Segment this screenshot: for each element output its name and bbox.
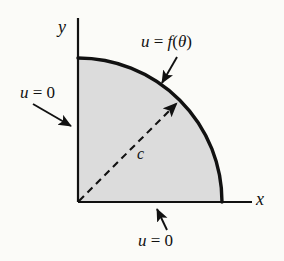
y-axis-label: y bbox=[58, 18, 66, 36]
bottom-edge-condition-label: u = 0 bbox=[138, 232, 173, 249]
leader-arrow-left-edge bbox=[33, 104, 71, 126]
leader-arrow-arc bbox=[162, 57, 177, 83]
figure-container: u = f(θ) u = 0 u = 0 c y x bbox=[0, 0, 284, 261]
arc-condition-label: u = f(θ) bbox=[141, 33, 192, 50]
radius-label: c bbox=[137, 146, 144, 162]
x-axis-label: x bbox=[256, 190, 264, 208]
left-edge-condition-label: u = 0 bbox=[20, 84, 55, 101]
leader-arrow-bottom-edge bbox=[157, 209, 167, 230]
